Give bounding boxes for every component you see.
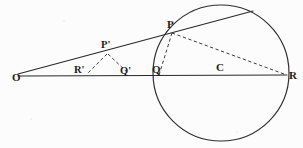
dashed-chord-p-r bbox=[172, 33, 284, 74]
point-label-r: R bbox=[289, 69, 298, 81]
point-label-c: C bbox=[216, 61, 224, 73]
point-label-q: Q bbox=[152, 63, 161, 75]
point-label-p-prime: P' bbox=[101, 39, 110, 50]
geometry-figure-svg: O R' P' Q' Q P C R bbox=[0, 0, 303, 148]
point-label-r-prime: R' bbox=[74, 64, 85, 75]
geometry-figure-container: O R' P' Q' Q P C R bbox=[0, 0, 303, 148]
point-label-o: O bbox=[12, 71, 21, 83]
dashed-segment-pprime-rprime bbox=[87, 54, 107, 74]
dashed-chord-p-q bbox=[159, 33, 172, 75]
point-label-p: P bbox=[167, 18, 174, 30]
point-label-q-prime: Q' bbox=[120, 65, 131, 76]
baseline-segment-o-r bbox=[18, 75, 287, 76]
